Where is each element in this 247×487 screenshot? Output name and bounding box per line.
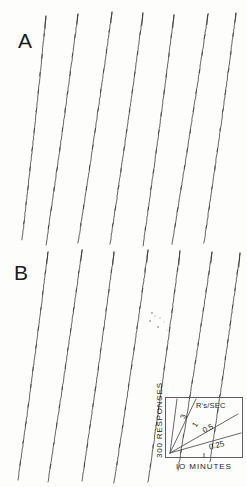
paper-speckle (163, 321, 164, 322)
legend-rate-units-label: R's/SEC (196, 401, 226, 410)
panel-label-a: A (18, 30, 32, 51)
paper-speckle (159, 317, 160, 318)
paper-speckle (151, 312, 153, 314)
paper-speckle (149, 320, 151, 322)
legend-x-axis-label: IO MINUTES (176, 462, 232, 471)
paper-speckle (166, 329, 167, 330)
paper-speckle (154, 315, 155, 316)
panel-label-b: B (14, 262, 28, 283)
paper-speckle (157, 326, 159, 328)
legend-y-axis-label: 300 RESPONSES (155, 382, 164, 458)
